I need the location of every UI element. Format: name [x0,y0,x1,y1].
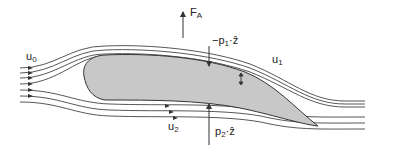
p2-suffix: ·ẑ [226,125,235,137]
lift-base: F [190,6,197,18]
u2-label: u2 [168,120,179,134]
p1-label: −p1·ẑ [212,34,238,48]
u1-label: u1 [272,53,283,67]
u0-label: u0 [26,50,37,64]
inflow-arrows [28,66,33,98]
u2-sub: 2 [174,125,178,134]
u1-sub: 1 [278,58,282,67]
p1-suffix: ·ẑ [229,34,238,46]
airfoil-diagram-svg [0,0,396,153]
p1-prefix: −p [212,34,225,46]
airfoil-diagram: u0 FA −p1·ẑ u1 u2 p2·ẑ [0,0,396,153]
u0-sub: 0 [32,55,36,64]
p2-label: p2·ẑ [215,125,235,139]
lift-sub: A [197,11,202,20]
lower-surface-arrows [165,104,178,120]
lift-label: FA [190,6,202,20]
